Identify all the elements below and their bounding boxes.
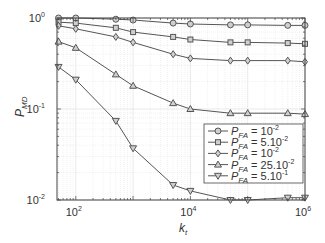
series-circle <box>56 15 308 28</box>
tick-labels: 10210410610010-110-2 <box>27 11 312 218</box>
x-tick-label: 106 <box>295 205 311 218</box>
triangle-down-marker-icon <box>112 118 119 124</box>
x-axis-label: kt <box>179 221 188 237</box>
diamond-marker-icon <box>73 25 78 32</box>
square-marker-icon <box>216 140 221 145</box>
circle-marker-icon <box>227 22 233 28</box>
square-marker-icon <box>285 41 290 46</box>
axis-labels: PMD kt <box>13 96 188 237</box>
y-tick-label: 10-1 <box>27 102 46 115</box>
x-tick-label: 102 <box>66 205 82 218</box>
square-marker-icon <box>131 30 136 35</box>
x-tick-label: 104 <box>180 205 196 218</box>
square-marker-icon <box>188 37 193 42</box>
circle-marker-icon <box>215 128 221 134</box>
diamond-marker-icon <box>188 55 193 62</box>
series-line <box>59 26 306 62</box>
square-marker-icon <box>113 25 118 30</box>
square-marker-icon <box>228 40 233 45</box>
triangle-up-marker-icon <box>112 71 119 77</box>
diamond-marker-icon <box>285 57 290 64</box>
series-diamond <box>56 22 307 65</box>
diamond-marker-icon <box>131 39 136 46</box>
triangle-up-marker-icon <box>170 100 177 106</box>
diamond-marker-icon <box>171 51 176 58</box>
diamond-marker-icon <box>228 57 233 64</box>
chart: 10210410610010-110-2 PMD kt PFA = 10-2PF… <box>0 0 325 243</box>
y-tick-label: 10-2 <box>27 193 46 206</box>
triangle-up-marker-icon <box>284 110 291 116</box>
circle-marker-icon <box>170 20 176 26</box>
circle-marker-icon <box>245 22 251 28</box>
diamond-marker-icon <box>113 33 118 40</box>
diamond-marker-icon <box>245 57 250 64</box>
square-marker-icon <box>171 34 176 39</box>
y-tick-label: 100 <box>29 11 45 24</box>
square-marker-icon <box>245 40 250 45</box>
triangle-up-marker-icon <box>55 38 62 44</box>
circle-marker-icon <box>285 22 291 28</box>
triangle-up-marker-icon <box>130 82 137 88</box>
y-axis-label: PMD <box>13 96 29 117</box>
legend: PFA = 10-2PFA = 5.10-2PFA = 10-2PFA = 25… <box>204 124 303 185</box>
